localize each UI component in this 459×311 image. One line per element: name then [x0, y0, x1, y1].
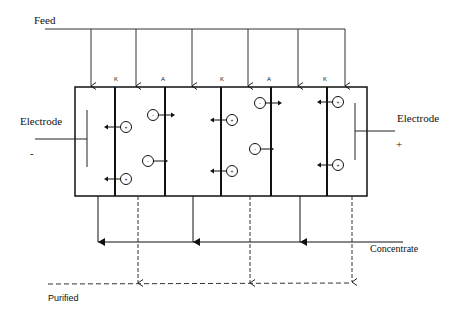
- membrane-label-k2: K: [220, 76, 224, 82]
- cation-ion: +: [104, 122, 132, 133]
- anion-ion: -: [148, 110, 176, 121]
- purified-line: [48, 283, 352, 284]
- cation-ion: +: [210, 115, 238, 126]
- membrane-label-a1: A: [161, 76, 165, 82]
- cation-ion: +: [104, 174, 132, 185]
- anion-ion: -: [255, 98, 283, 109]
- purified-outlets: [138, 196, 352, 283]
- membrane-label-a2: A: [267, 76, 271, 82]
- feed-inlet-arrows: [91, 29, 345, 86]
- electrode-right-sign: +: [396, 138, 402, 150]
- svg-text:+: +: [337, 162, 340, 168]
- membrane-labels: K A K A K: [114, 76, 327, 82]
- electrode-left: Electrode -: [20, 110, 87, 167]
- membranes: [115, 87, 327, 196]
- cation-ion: +: [317, 97, 344, 108]
- membrane-label-k3: K: [323, 76, 327, 82]
- electrode-left-label: Electrode: [20, 115, 62, 127]
- svg-text:+: +: [125, 176, 128, 182]
- cation-ion: +: [210, 166, 238, 177]
- electrode-right-label: Electrode: [397, 112, 439, 124]
- purified-label: Purified: [48, 293, 79, 303]
- cation-ion: +: [317, 160, 344, 171]
- feed-label: Feed: [34, 14, 56, 26]
- svg-text:+: +: [231, 168, 234, 174]
- svg-text:+: +: [231, 117, 234, 123]
- membrane-label-k1: K: [114, 76, 118, 82]
- concentrate-label: Concentrate: [370, 243, 419, 254]
- electrodialysis-diagram: Feed K A K A K Electrode - Electrode: [0, 0, 459, 311]
- svg-text:+: +: [337, 99, 340, 105]
- concentrate-outlets: [98, 196, 300, 242]
- electrode-left-sign: -: [30, 147, 34, 159]
- ions: + + - - +: [104, 97, 344, 185]
- svg-text:+: +: [125, 124, 128, 130]
